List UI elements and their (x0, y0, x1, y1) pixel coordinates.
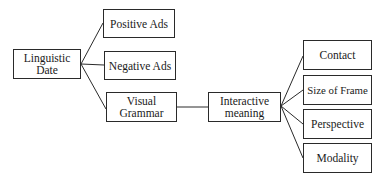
node-label: Positive Ads (110, 18, 168, 30)
node-label: Size of Frame (307, 84, 368, 96)
node-label: Visual Grammar (119, 95, 163, 119)
node-perspective: Perspective (303, 109, 372, 139)
node-linguistic-date: Linguistic Date (13, 49, 81, 79)
node-label: Perspective (311, 118, 364, 130)
node-label: Linguistic Date (15, 52, 79, 76)
node-visual-grammar: Visual Grammar (106, 92, 177, 122)
node-label: Negative Ads (109, 60, 171, 72)
node-negative-ads: Negative Ads (104, 51, 176, 80)
node-label: Modality (316, 152, 358, 164)
node-label: Interactive meaning (215, 95, 274, 119)
node-positive-ads: Positive Ads (103, 9, 175, 38)
node-modality: Modality (303, 143, 372, 173)
node-label: Contact (320, 49, 356, 61)
node-size-of-frame: Size of Frame (303, 75, 372, 105)
node-contact: Contact (303, 40, 372, 70)
node-interactive-meaning: Interactive meaning (208, 92, 281, 122)
